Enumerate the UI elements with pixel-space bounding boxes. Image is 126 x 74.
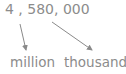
thousand-label: thousand	[64, 54, 126, 70]
million-label: million	[10, 54, 55, 70]
arrow-to-million	[20, 24, 26, 50]
arrow-to-thousand	[52, 22, 92, 50]
